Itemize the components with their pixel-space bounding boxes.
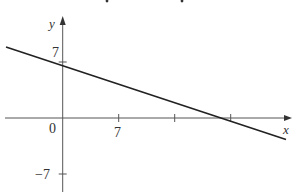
origin-label: 0 <box>49 121 56 136</box>
x-axis-label: x <box>282 122 289 137</box>
x-tick-label-7: 7 <box>114 125 121 140</box>
y-tick-label-7: 7 <box>52 45 59 60</box>
y-tick-label-neg7: −7 <box>35 167 50 182</box>
cropped-text-fragment <box>181 0 184 2</box>
cropped-text-fragment <box>106 0 109 2</box>
y-axis-label: y <box>47 16 55 31</box>
chart-canvas: y x 0 7 7 −7 <box>0 0 292 192</box>
y-axis-arrow-icon <box>60 16 66 25</box>
data-line <box>6 47 286 140</box>
x-axis-arrow-icon <box>284 115 292 121</box>
y-axis <box>59 16 67 192</box>
